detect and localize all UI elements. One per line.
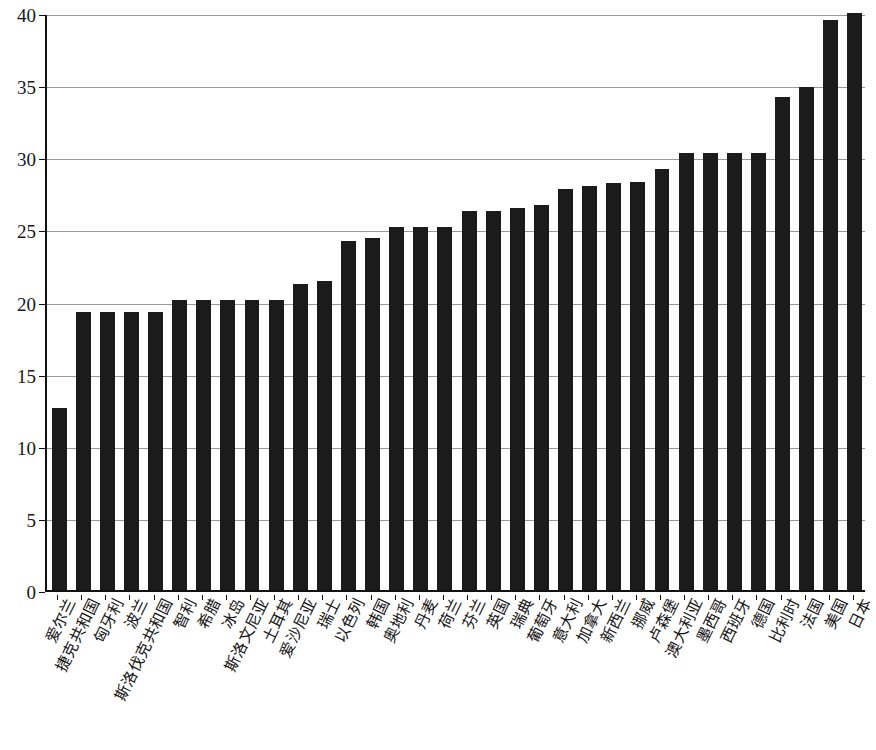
x-axis-tick-mark — [539, 595, 540, 600]
plot-area — [45, 15, 865, 592]
bar[interactable] — [124, 312, 139, 590]
x-axis-tick-mark — [178, 595, 179, 600]
x-axis-tick-mark — [322, 595, 323, 600]
bar[interactable] — [413, 227, 428, 591]
bar[interactable] — [486, 211, 501, 590]
x-axis-tick-mark — [612, 595, 613, 600]
bar[interactable] — [655, 169, 670, 590]
x-axis-tick-mark — [491, 595, 492, 600]
x-axis-label: 英国 — [485, 596, 513, 632]
bar[interactable] — [172, 300, 187, 590]
x-axis-tick-mark — [443, 595, 444, 600]
bar[interactable] — [558, 189, 573, 590]
x-axis-tick-mark — [588, 595, 589, 600]
x-axis-tick-mark — [660, 595, 661, 600]
bar[interactable] — [341, 241, 356, 590]
bar[interactable] — [582, 186, 597, 590]
y-axis-tick-label: 35 — [0, 78, 36, 97]
x-axis-tick-mark — [708, 595, 709, 600]
bar[interactable] — [679, 153, 694, 590]
bar-chart: 0510152025303540 爱尔兰捷克共和国匈牙利波兰斯洛伐克共和国智利希… — [0, 0, 876, 750]
bar[interactable] — [510, 208, 525, 590]
y-axis-tick-label: 30 — [0, 150, 36, 169]
x-axis-tick-mark — [202, 595, 203, 600]
x-axis-tick-mark — [274, 595, 275, 600]
y-axis-tick-label: 15 — [0, 366, 36, 385]
x-axis-tick-mark — [564, 595, 565, 600]
bar[interactable] — [317, 281, 332, 590]
x-axis-tick-mark — [81, 595, 82, 600]
bar[interactable] — [847, 13, 862, 590]
y-axis-tick-label: 10 — [0, 438, 36, 457]
x-axis-label: 荷兰 — [437, 596, 465, 632]
x-axis-tick-mark — [346, 595, 347, 600]
x-axis-tick-mark — [105, 595, 106, 600]
x-axis-tick-mark — [853, 595, 854, 600]
bar[interactable] — [293, 284, 308, 590]
x-axis-tick-mark — [781, 595, 782, 600]
x-axis-label: 丹麦 — [413, 596, 441, 632]
y-axis-tick-label: 40 — [0, 6, 36, 25]
bar[interactable] — [100, 312, 115, 590]
x-axis-tick-mark — [371, 595, 372, 600]
bar[interactable] — [727, 153, 742, 590]
bar[interactable] — [462, 211, 477, 590]
bar[interactable] — [823, 20, 838, 590]
bar[interactable] — [269, 300, 284, 590]
x-axis-tick-mark — [419, 595, 420, 600]
bar[interactable] — [52, 408, 67, 590]
x-axis-label: 智利 — [172, 596, 200, 632]
x-axis-tick-mark — [684, 595, 685, 600]
bar[interactable] — [751, 153, 766, 590]
bar[interactable] — [534, 205, 549, 590]
bar[interactable] — [606, 183, 621, 590]
y-axis-tick-label: 25 — [0, 222, 36, 241]
x-axis-label: 希腊 — [196, 596, 224, 632]
x-axis-tick-mark — [805, 595, 806, 600]
x-axis-label: 芬兰 — [461, 596, 489, 632]
bar[interactable] — [703, 153, 718, 590]
x-axis-tick-mark — [226, 595, 227, 600]
bar[interactable] — [389, 227, 404, 591]
x-axis-tick-mark — [515, 595, 516, 600]
bar[interactable] — [437, 227, 452, 591]
bars-group — [47, 15, 865, 590]
x-axis-tick-mark — [756, 595, 757, 600]
x-axis-tick-mark — [732, 595, 733, 600]
x-axis-tick-mark — [129, 595, 130, 600]
y-axis-tick-label: 5 — [0, 510, 36, 529]
bar[interactable] — [76, 312, 91, 590]
x-axis-tick-mark — [636, 595, 637, 600]
bar[interactable] — [775, 97, 790, 590]
bar[interactable] — [148, 312, 163, 590]
x-axis-tick-mark — [395, 595, 396, 600]
x-axis-tick-mark — [298, 595, 299, 600]
bar[interactable] — [220, 300, 235, 590]
bar[interactable] — [196, 300, 211, 590]
x-axis-label: 法国 — [799, 596, 827, 632]
y-axis-ticks: 0510152025303540 — [0, 15, 40, 592]
x-axis-tick-mark — [154, 595, 155, 600]
y-axis-tick-label: 0 — [0, 583, 36, 602]
x-axis-tick-mark — [250, 595, 251, 600]
x-axis-label: 日本 — [847, 596, 875, 632]
x-axis-label: 美国 — [823, 596, 851, 632]
x-axis-tick-mark — [57, 595, 58, 600]
x-axis-labels: 爱尔兰捷克共和国匈牙利波兰斯洛伐克共和国智利希腊冰岛斯洛文尼亚土耳其爱沙尼亚瑞士… — [45, 596, 865, 750]
x-axis-tick-mark — [829, 595, 830, 600]
bar[interactable] — [365, 238, 380, 590]
x-axis-tick-mark — [467, 595, 468, 600]
y-axis-tick-mark — [39, 592, 45, 593]
bar[interactable] — [245, 300, 260, 590]
bar[interactable] — [630, 182, 645, 590]
bar[interactable] — [799, 87, 814, 590]
y-axis-tick-label: 20 — [0, 294, 36, 313]
